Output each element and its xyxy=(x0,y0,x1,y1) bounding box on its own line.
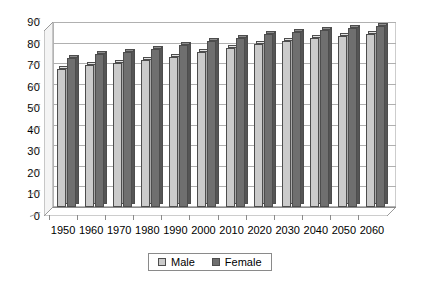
bar-female-1980[interactable] xyxy=(151,49,160,207)
y-tick-mark xyxy=(30,39,41,44)
bar-group xyxy=(109,22,137,216)
bars-layer xyxy=(44,22,396,216)
bar-face xyxy=(226,48,235,207)
bar-face xyxy=(95,54,104,207)
bar-face xyxy=(141,60,150,207)
bar-male-1970[interactable] xyxy=(113,63,122,207)
bar-face xyxy=(113,63,122,207)
bar-face xyxy=(338,36,347,207)
y-tick-mark xyxy=(30,126,41,131)
bar-group xyxy=(306,22,334,216)
bar-top xyxy=(209,38,218,41)
bar-male-2050[interactable] xyxy=(338,36,347,207)
bar-female-2040[interactable] xyxy=(320,30,329,207)
bar-female-2060[interactable] xyxy=(376,26,385,207)
bar-side xyxy=(301,29,304,204)
bar-female-2010[interactable] xyxy=(236,38,245,207)
bar-side xyxy=(104,51,107,204)
bar-side xyxy=(329,27,332,204)
x-tick-mark xyxy=(246,215,247,220)
bar-face xyxy=(123,52,132,207)
y-tick-mark xyxy=(30,83,41,88)
legend-swatch-female-icon xyxy=(212,258,220,266)
bar-side xyxy=(160,46,163,204)
bar-male-2020[interactable] xyxy=(254,44,263,207)
bar-face xyxy=(197,52,206,207)
legend-label-male: Male xyxy=(171,256,195,268)
bar-face xyxy=(376,26,385,207)
bar-face xyxy=(254,44,263,207)
bar-female-2050[interactable] xyxy=(348,28,357,207)
x-tick-mark xyxy=(218,215,219,220)
x-tick-mark xyxy=(330,215,331,220)
bar-male-2060[interactable] xyxy=(366,34,375,207)
y-tick-mark xyxy=(30,169,41,174)
bar-female-1950[interactable] xyxy=(67,58,76,207)
bar-male-1950[interactable] xyxy=(57,69,66,207)
bar-group xyxy=(81,22,109,216)
y-tick-mark xyxy=(30,104,41,109)
bar-group xyxy=(53,22,81,216)
x-tick-label: 1980 xyxy=(132,224,162,236)
bar-male-2040[interactable] xyxy=(310,38,319,207)
x-tick-label: 2060 xyxy=(357,224,387,236)
x-tick-label: 1960 xyxy=(76,224,106,236)
x-tick-label: 1970 xyxy=(104,224,134,236)
bar-group xyxy=(278,22,306,216)
bar-group xyxy=(250,22,278,216)
x-tick-label: 2020 xyxy=(245,224,275,236)
y-tick-mark xyxy=(30,190,41,195)
bar-female-1970[interactable] xyxy=(123,52,132,207)
bar-female-1960[interactable] xyxy=(95,54,104,207)
x-tick-mark xyxy=(77,215,78,220)
x-tick-mark xyxy=(49,215,50,220)
x-tick-mark xyxy=(189,215,190,220)
x-tick-label: 1950 xyxy=(48,224,78,236)
legend-label-female: Female xyxy=(225,256,262,268)
bar-face xyxy=(179,45,188,207)
x-tick-label: 2040 xyxy=(301,224,331,236)
x-tick-mark xyxy=(105,215,106,220)
bar-male-2030[interactable] xyxy=(282,41,291,208)
bar-face xyxy=(348,28,357,207)
bar-face xyxy=(310,38,319,207)
legend-item-female[interactable]: Female xyxy=(212,256,262,268)
chart-legend: Male Female xyxy=(148,253,272,271)
bar-male-2010[interactable] xyxy=(226,48,235,207)
bar-male-1960[interactable] xyxy=(85,65,94,207)
x-tick-mark xyxy=(358,215,359,220)
bar-face xyxy=(57,69,66,207)
x-tick-label: 2030 xyxy=(273,224,303,236)
bar-face xyxy=(151,49,160,207)
bar-male-2000[interactable] xyxy=(197,52,206,207)
x-tick-label: 2010 xyxy=(217,224,247,236)
bar-group xyxy=(137,22,165,216)
bar-side xyxy=(273,31,276,204)
bar-face xyxy=(282,41,291,208)
bar-female-2030[interactable] xyxy=(292,32,301,207)
bar-top xyxy=(153,46,162,49)
bar-female-2000[interactable] xyxy=(207,41,216,208)
bar-side xyxy=(357,25,360,204)
bar-male-1990[interactable] xyxy=(169,57,178,207)
legend-item-male[interactable]: Male xyxy=(158,256,195,268)
x-tick-mark xyxy=(133,215,134,220)
bar-female-1990[interactable] xyxy=(179,45,188,207)
bar-side xyxy=(132,49,135,204)
bar-side xyxy=(76,55,79,204)
bar-top xyxy=(266,31,275,34)
bar-top xyxy=(294,29,303,32)
x-tick-label: 2000 xyxy=(188,224,218,236)
x-axis: 1950196019701980199020002010202020302040… xyxy=(44,224,404,240)
bar-group xyxy=(222,22,250,216)
bar-female-2020[interactable] xyxy=(264,34,273,207)
bar-group xyxy=(334,22,362,216)
bar-male-1980[interactable] xyxy=(141,60,150,207)
x-tick-mark xyxy=(302,215,303,220)
bar-top xyxy=(238,35,247,38)
bar-face xyxy=(366,34,375,207)
bar-face xyxy=(292,32,301,207)
y-tick-mark xyxy=(30,147,41,152)
bar-face xyxy=(264,34,273,207)
bar-face xyxy=(169,57,178,207)
